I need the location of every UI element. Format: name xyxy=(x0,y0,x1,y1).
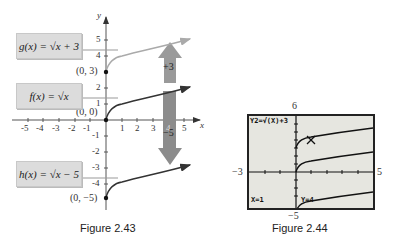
x-tick: -2 xyxy=(68,123,76,133)
x-tick: 5 xyxy=(182,123,187,133)
calculator-screen: Y2=√(X)+3 X=1 Y=4 xyxy=(247,114,375,210)
shift-down-label: −5 xyxy=(163,127,174,138)
point-f xyxy=(104,118,108,122)
x-readout: X=1 xyxy=(251,196,264,204)
x-tick: 2 xyxy=(135,123,140,133)
shift-up-label: +3 xyxy=(163,61,174,72)
x-tick: -5 xyxy=(21,123,29,133)
window-ymin: −5 xyxy=(288,210,299,221)
x-tick: 1 xyxy=(120,123,125,133)
label-h: h(x) = √x − 5 xyxy=(16,161,82,187)
x-tick: -1 xyxy=(83,123,91,133)
window-xmax: 5 xyxy=(377,166,382,177)
x-tick: -4 xyxy=(36,123,44,133)
caption-fig-2-43: Figure 2.43 xyxy=(80,222,136,234)
y-tick: -3 xyxy=(92,162,100,172)
y-tick: -1 xyxy=(92,130,100,140)
y-tick: 2 xyxy=(96,82,101,92)
x-tick: 3 xyxy=(151,123,156,133)
point-h xyxy=(104,196,108,200)
x-tick: -3 xyxy=(52,123,60,133)
y-tick: -4 xyxy=(92,178,100,188)
point-label-h: (0, −5) xyxy=(70,192,97,203)
point-label-g: (0, 3) xyxy=(76,65,98,76)
point-g xyxy=(104,70,108,74)
y-axis-label: y xyxy=(97,10,101,20)
h-curve xyxy=(106,165,190,198)
window-ymax: 6 xyxy=(292,100,297,111)
label-f: f(x) = √x xyxy=(16,83,82,109)
calculator-graph xyxy=(249,116,373,208)
caption-fig-2-44: Figure 2.44 xyxy=(272,222,328,234)
x-axis-label: x xyxy=(200,120,204,130)
label-g: g(x) = √x + 3 xyxy=(16,33,82,59)
window-xmin: −3 xyxy=(232,166,243,177)
y-readout: Y=4 xyxy=(301,196,314,204)
y-tick: -2 xyxy=(92,146,100,156)
equation-readout: Y2=√(X)+3 xyxy=(250,117,288,125)
y-tick: 5 xyxy=(96,34,101,44)
y-tick: 4 xyxy=(96,50,101,60)
f-curve xyxy=(106,87,190,120)
